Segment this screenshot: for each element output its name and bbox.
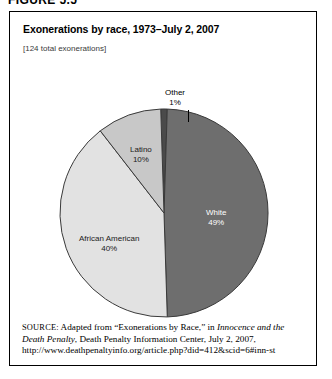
pie-label-other-value: 1% [165, 98, 185, 108]
pie-label-latino: Latino 10% [130, 145, 152, 165]
pie-label-african-american: African American 40% [79, 234, 139, 254]
pie-label-african-american-name: African American [79, 234, 139, 244]
pie-chart [58, 107, 270, 319]
source-note: SOURCE: Adapted from “Exonerations by Ra… [22, 322, 304, 357]
pie-label-other: Other 1% [165, 88, 185, 108]
chart-title: Exonerations by race, 1973–July 2, 2007 [23, 23, 219, 35]
pie-label-white: White 49% [206, 208, 226, 228]
pie-chart-svg [58, 107, 270, 319]
chart-subtitle: [124 total exonerations] [23, 44, 106, 53]
pie-label-african-american-value: 40% [79, 244, 139, 254]
other-leader-line [188, 110, 189, 122]
source-note-kicker: SOURCE: [22, 323, 59, 332]
pie-label-latino-name: Latino [130, 145, 152, 155]
pie-label-white-value: 49% [206, 218, 226, 228]
pie-label-white-name: White [206, 208, 226, 218]
figure-number-label: FIGURE 5.5 [8, 0, 77, 7]
source-note-text-1: Adapted from “Exonerations by Race,” in [59, 322, 217, 332]
figure-box: Exonerations by race, 1973–July 2, 2007 … [9, 11, 317, 366]
pie-label-latino-value: 10% [130, 155, 152, 165]
pie-label-other-name: Other [165, 88, 185, 98]
